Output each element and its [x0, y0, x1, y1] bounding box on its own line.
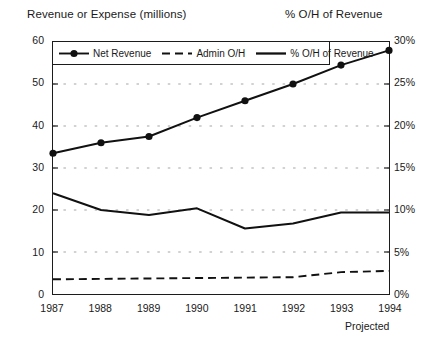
x-tick-label: 1993 [316, 302, 368, 314]
data-point-marker [97, 139, 104, 146]
projected-note: Projected [345, 320, 389, 332]
plot-area [52, 41, 390, 295]
x-tick-label: 1988 [74, 302, 126, 314]
left-tick-label: 0 [4, 288, 44, 300]
right-tick-label: 20% [394, 119, 434, 131]
legend-swatch-icon [256, 48, 286, 59]
x-tick-label: 1994 [364, 302, 416, 314]
right-tick-label: 15% [394, 161, 434, 173]
data-series-layer [53, 42, 389, 294]
legend: Net RevenueAdmin O/H% O/H of Revenue [52, 41, 330, 65]
right-tick-label: 0% [394, 288, 434, 300]
legend-label: Net Revenue [93, 48, 151, 59]
left-tick-label: 20 [4, 203, 44, 215]
data-point-marker [385, 47, 392, 54]
left-tick-label: 60 [4, 34, 44, 46]
legend-label: Admin O/H [196, 48, 245, 59]
left-tick-label: 40 [4, 119, 44, 131]
legend-item-net-revenue[interactable]: Net Revenue [59, 48, 151, 59]
chart-figure: Revenue or Expense (millions) % O/H of R… [0, 0, 434, 345]
right-tick-label: 30% [394, 34, 434, 46]
left-tick-label: 10 [4, 246, 44, 258]
data-point-marker [289, 80, 296, 87]
x-tick-label: 1992 [267, 302, 319, 314]
data-point-marker [49, 150, 56, 157]
x-tick-label: 1987 [26, 302, 78, 314]
legend-swatch-icon [59, 48, 89, 59]
right-tick-label: 5% [394, 246, 434, 258]
left-axis-title: Revenue or Expense (millions) [27, 8, 187, 20]
right-tick-label: 10% [394, 203, 434, 215]
legend-item-admin-o-h[interactable]: Admin O/H [162, 48, 245, 59]
legend-label: % O/H of Revenue [290, 48, 373, 59]
left-tick-label: 50 [4, 76, 44, 88]
data-point-marker [241, 97, 248, 104]
data-point-marker [337, 62, 344, 69]
data-point-marker [193, 114, 200, 121]
right-tick-label: 25% [394, 76, 434, 88]
x-tick-label: 1989 [123, 302, 175, 314]
legend-item-o-h-of-revenue[interactable]: % O/H of Revenue [256, 48, 373, 59]
x-tick-label: 1991 [219, 302, 271, 314]
right-axis-title: % O/H of Revenue [285, 8, 382, 20]
data-point-marker [145, 133, 152, 140]
series-line-admin-o-h [53, 271, 389, 279]
series-line-o-h-of-revenue [53, 193, 389, 228]
x-tick-label: 1990 [171, 302, 223, 314]
left-tick-label: 30 [4, 161, 44, 173]
legend-swatch-icon [162, 48, 192, 59]
